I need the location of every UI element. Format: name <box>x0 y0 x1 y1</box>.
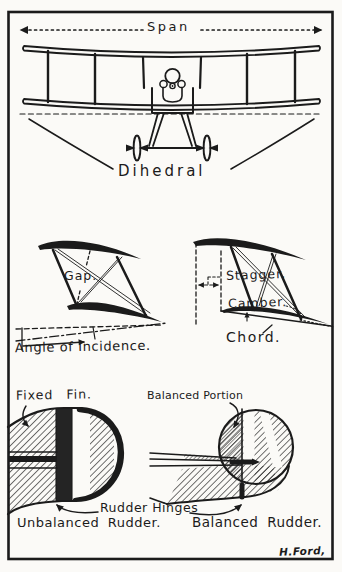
wing-cell-gap-diagram <box>16 241 167 350</box>
chord-label: Chord. <box>226 330 281 345</box>
rudder-hinges-label: Rudder Hinges <box>100 501 198 515</box>
diagram-artwork <box>0 0 342 572</box>
lower-wing <box>23 99 320 110</box>
upper-airfoil <box>193 238 306 260</box>
artist-signature: H.Ford, <box>279 545 326 558</box>
lower-airfoil <box>67 302 162 322</box>
stagger-label: Stagger. <box>226 267 286 283</box>
scanned-diagram-page: Span Dihedral Gap. Angle of Incidence. S… <box>0 0 342 572</box>
unbalanced-rudder-label: Unbalanced Rudder. <box>17 516 161 530</box>
pilot-head <box>165 69 179 83</box>
span-label: Span <box>147 20 190 34</box>
dihedral-label: Dihedral <box>118 163 206 180</box>
angle-of-incidence-label: Angle of Incidence. <box>15 339 151 356</box>
fixed-fin-label: Fixed Fin. <box>16 387 92 402</box>
hinge-band <box>56 406 72 504</box>
gap-label: Gap. <box>64 269 97 283</box>
balanced-rudder-label: Balanced Rudder. <box>192 515 322 530</box>
hinge-arrow-left <box>57 505 98 513</box>
upper-wing <box>23 46 320 57</box>
balanced-portion-label: Balanced Portion <box>147 390 243 402</box>
landing-gear-struts <box>149 113 196 146</box>
balanced-rudder-drawing <box>150 406 295 504</box>
wing-cell-stagger-diagram <box>193 238 334 333</box>
biplane-front-view <box>20 46 322 161</box>
camber-label: Camber. <box>228 295 288 311</box>
